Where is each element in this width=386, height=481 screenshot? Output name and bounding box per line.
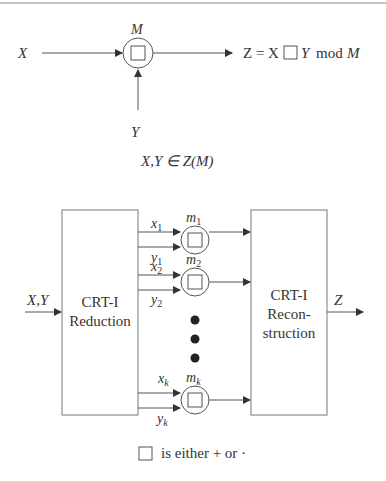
channel-k-mod-circle [181,386,209,414]
ellipsis-dot [191,335,200,344]
channel-k: xk yk mk [138,370,250,428]
channel-1-x-label: x1 [150,216,162,233]
ellipsis-dot [191,316,200,325]
reduction-line2: Reduction [69,313,131,329]
input-y-label: Y [131,124,141,140]
operator-square-icon [131,46,145,60]
operator-square-icon [188,393,202,407]
channel-2-m-label: m2 [186,252,201,269]
channel-1-mod-circle [181,226,209,254]
output-lhs: Z = X [243,45,279,61]
channel-k-x-label: xk [157,371,169,388]
bottom-diagram: X,Y CRT-I Reduction CRT-I Recon- structi… [25,210,363,428]
channel-k-y-label: yk [155,411,168,428]
operator-square-icon [188,275,202,289]
crt-diagram: X M Y Z = X Y mod M X,Y ∈ Z(M) X,Y CRT-I… [0,0,386,481]
channel-2-y-label: y2 [149,292,162,309]
crt-output-label: Z [334,292,343,308]
modulus-label: M [130,22,144,37]
channel-k-m-label: mk [186,370,201,387]
output-expr-mod: mod [316,45,343,61]
channel-1-m-label: m1 [186,210,201,227]
legend-text: is either + or · [161,445,246,461]
output-expr-modulus: M [346,45,361,61]
operator-square-icon [284,46,297,59]
crt-input-label: X,Y [26,292,50,308]
operator-square-icon [188,233,202,247]
ellipsis-dot [191,354,200,363]
reconstruction-line2: Recon- [267,306,310,322]
reduction-line1: CRT-I [82,294,119,310]
operator-square-icon [139,447,152,460]
top-diagram: X M Y Z = X Y mod M X,Y ∈ Z(M) [17,22,361,170]
reconstruction-line3: struction [263,325,316,341]
output-expr-y: Y [301,45,311,61]
reconstruction-line1: CRT-I [271,287,308,303]
channel-2-mod-circle [181,268,209,296]
output-expr-lhs: Z = X [243,45,279,61]
input-x-label: X [17,45,28,61]
legend: is either + or · [139,445,246,461]
domain-note: X,Y ∈ Z(M) [140,153,214,170]
channel-2: x2 y2 m2 [138,252,250,309]
mod-operator-circle [123,38,153,68]
